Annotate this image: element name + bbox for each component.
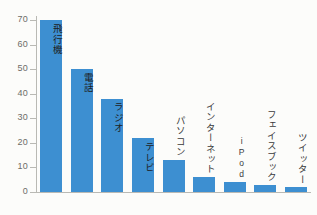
bar-group[interactable]: フェイスブック [254, 0, 276, 193]
y-axis-tick-label: 30 [4, 113, 28, 122]
y-axis-tick-label: 60 [4, 40, 28, 49]
y-axis-tick-label: 20 [4, 138, 28, 147]
bar-group[interactable]: iPod [224, 0, 246, 193]
bar[interactable] [254, 185, 276, 192]
bar-label: 飛行機 [40, 24, 62, 55]
bar-group[interactable]: テレビ [132, 0, 154, 193]
y-axis-tick-label: 50 [4, 64, 28, 73]
bar[interactable] [285, 187, 307, 192]
y-axis-tick-label: 0 [4, 187, 28, 196]
y-axis-tick-label: 70 [4, 15, 28, 24]
bar-label: iPod [224, 136, 246, 180]
bar[interactable] [163, 160, 185, 192]
bar-series: 飛行機電話ラジオテレビパソコンインターネットiPodフェイスブックツイッター [36, 0, 311, 193]
bar-label: テレビ [132, 142, 154, 173]
bar-group[interactable]: ツイッター [285, 0, 307, 193]
bar-label: フェイスブック [254, 110, 276, 183]
bar-label: ラジオ [101, 103, 123, 134]
bar-group[interactable]: ラジオ [101, 0, 123, 193]
bar-group[interactable]: パソコン [163, 0, 185, 193]
bar-group[interactable]: 電話 [71, 0, 93, 193]
y-axis-tick-label: 10 [4, 162, 28, 171]
bar-label: パソコン [163, 116, 185, 158]
bar[interactable] [224, 182, 246, 192]
bar-chart: 010203040506070 飛行機電話ラジオテレビパソコンインターネットiP… [0, 0, 317, 215]
bar-group[interactable]: インターネット [193, 0, 215, 193]
bar[interactable] [193, 177, 215, 192]
bar-label: ツイッター [285, 133, 307, 185]
bar-label: 電話 [71, 73, 93, 94]
bar-group[interactable]: 飛行機 [40, 0, 62, 193]
bar-label: インターネット [193, 102, 215, 175]
y-axis-tick-label: 40 [4, 89, 28, 98]
